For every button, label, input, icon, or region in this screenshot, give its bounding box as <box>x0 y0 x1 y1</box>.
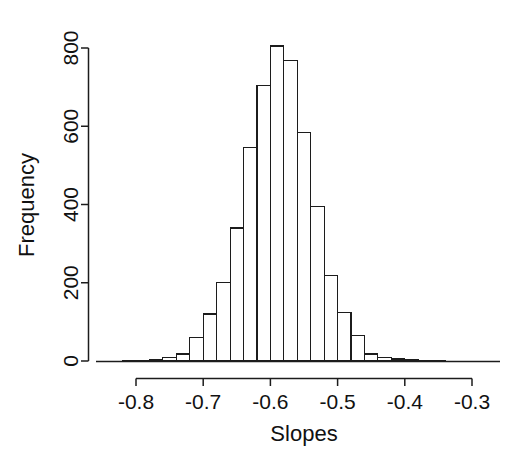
histogram-bar <box>230 228 243 361</box>
histogram-bars <box>123 46 446 361</box>
histogram-bar <box>338 312 351 361</box>
y-tick-label: 600 <box>59 109 82 144</box>
y-tick-label: 400 <box>59 187 82 222</box>
histogram-bar <box>405 360 418 361</box>
histogram-bar <box>391 359 404 361</box>
x-tick-label: -0.6 <box>252 390 288 413</box>
histogram-figure: 0200400600800 -0.8-0.7-0.6-0.5-0.4-0.3 S… <box>0 0 520 468</box>
y-axis-title: Frequency <box>14 153 39 257</box>
histogram-bar <box>203 314 216 361</box>
y-tick-group: 0200400600800 <box>59 30 89 366</box>
x-tick-group: -0.8-0.7-0.6-0.5-0.4-0.3 <box>118 379 490 414</box>
y-tick-label: 0 <box>59 355 82 367</box>
histogram-bar <box>176 354 189 361</box>
histogram-bar <box>270 46 283 361</box>
y-tick-label: 800 <box>59 30 82 65</box>
x-tick-label: -0.5 <box>320 390 356 413</box>
histogram-bar <box>217 283 230 361</box>
y-tick-label: 200 <box>59 265 82 300</box>
histogram-bar <box>297 132 310 361</box>
x-tick-label: -0.4 <box>387 390 424 413</box>
histogram-bar <box>190 338 203 361</box>
x-axis-title: Slopes <box>270 421 337 446</box>
histogram-bar <box>149 359 162 361</box>
histogram-bar <box>284 61 297 361</box>
histogram-bar <box>351 336 364 361</box>
histogram-bar <box>257 85 270 361</box>
histogram-bar <box>364 354 377 361</box>
histogram-bar <box>244 148 257 361</box>
histogram-bar <box>311 206 324 361</box>
histogram-bar <box>163 358 176 361</box>
histogram-bar <box>378 357 391 361</box>
histogram-bar <box>324 276 337 361</box>
x-tick-label: -0.3 <box>454 390 490 413</box>
x-tick-label: -0.8 <box>118 390 154 413</box>
histogram-plot: 0200400600800 -0.8-0.7-0.6-0.5-0.4-0.3 S… <box>0 0 520 468</box>
x-tick-label: -0.7 <box>185 390 221 413</box>
